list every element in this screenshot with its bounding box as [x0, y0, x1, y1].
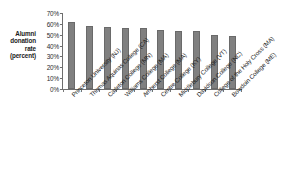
bar-slot	[134, 13, 152, 89]
x-axis-tick-mark	[99, 89, 100, 92]
bar	[104, 27, 111, 89]
y-axis-tick-label: 30%	[47, 53, 59, 60]
bar	[68, 22, 75, 89]
y-axis-title-line: (percent)	[0, 52, 36, 59]
y-axis-tick-labels: 70%60%50%40%30%20%10%0%	[38, 10, 60, 92]
bar-slot	[170, 13, 188, 89]
x-axis-tick-mark	[134, 89, 135, 92]
bar-slot	[205, 13, 223, 89]
plot-area	[62, 13, 241, 90]
x-axis-tick-mark	[241, 89, 242, 92]
x-axis-tick-mark	[205, 89, 206, 92]
y-axis-tick-label: 70%	[47, 10, 59, 17]
bar	[122, 28, 129, 89]
y-axis-tick-label: 20%	[47, 64, 59, 71]
x-axis-tick-mark	[223, 89, 224, 92]
y-axis-tick-label: 40%	[47, 42, 59, 49]
y-axis-tick-label: 10%	[47, 75, 59, 82]
bar	[157, 30, 164, 89]
y-axis-title-line: rate	[0, 45, 36, 52]
x-axis-tick-mark	[116, 89, 117, 92]
bar-slot	[99, 13, 117, 89]
x-axis-tick-marks	[63, 89, 241, 92]
caption-residue	[60, 181, 240, 191]
bar	[86, 26, 93, 89]
x-axis-tick-mark	[188, 89, 189, 92]
bar-slot	[223, 13, 241, 89]
bar	[193, 31, 200, 89]
bar-slot	[81, 13, 99, 89]
y-axis-title: Alumni donation rate (percent)	[0, 30, 36, 60]
x-axis-tick-mark	[81, 89, 82, 92]
x-axis-tick-mark	[63, 89, 64, 92]
bar-slot	[116, 13, 134, 89]
x-axis-tick-mark	[152, 89, 153, 92]
y-axis-tick-label: 60%	[47, 20, 59, 27]
bar-slot	[188, 13, 206, 89]
y-axis-tick-label: 50%	[47, 31, 59, 38]
y-axis-title-line: donation	[0, 37, 36, 44]
bar	[140, 28, 147, 89]
x-axis-tick-mark	[170, 89, 171, 92]
bar-slot	[152, 13, 170, 89]
y-axis-tick-label: 0%	[50, 86, 59, 93]
bar-chart: Alumni donation rate (percent) 70%60%50%…	[0, 0, 297, 194]
bar-slot	[63, 13, 81, 89]
bar	[175, 31, 182, 89]
bar-series	[63, 13, 241, 89]
bar	[229, 36, 236, 89]
bar	[211, 35, 218, 89]
y-axis-title-line: Alumni	[0, 30, 36, 37]
